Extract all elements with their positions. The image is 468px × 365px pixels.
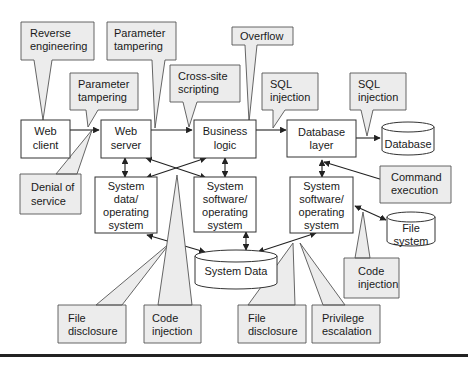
svg-text:injection: injection [152, 325, 192, 337]
box-system-software-os-mid: System software/ operating system [194, 177, 256, 232]
svg-text:system: system [109, 219, 144, 231]
svg-text:service: service [31, 195, 66, 207]
svg-text:system: system [394, 235, 429, 247]
svg-text:escalation: escalation [322, 325, 372, 337]
svg-text:execution: execution [391, 184, 438, 196]
svg-text:disclosure: disclosure [68, 325, 118, 337]
threat-diagram: Reverse engineering Parameter tampering … [0, 0, 468, 365]
svg-text:System: System [303, 180, 340, 192]
svg-text:system: system [208, 219, 243, 231]
bottom-divider [0, 354, 468, 357]
svg-text:tampering: tampering [114, 40, 163, 52]
svg-text:engineering: engineering [30, 40, 88, 52]
cylinder-file-system: File system [387, 212, 435, 247]
svg-text:Code: Code [358, 265, 384, 277]
svg-text:client: client [33, 139, 59, 151]
svg-text:File: File [248, 312, 266, 324]
svg-text:operating: operating [299, 206, 345, 218]
cylinder-system-data: System Data [195, 250, 277, 289]
svg-text:System Data: System Data [205, 265, 269, 277]
svg-text:Database: Database [298, 126, 345, 138]
svg-text:System: System [108, 180, 145, 192]
svg-text:Overflow: Overflow [240, 30, 283, 42]
svg-text:Privilege: Privilege [322, 312, 364, 324]
svg-text:Business: Business [203, 125, 248, 137]
svg-text:Web: Web [34, 125, 56, 137]
box-web-server: Web server [101, 120, 151, 158]
svg-text:Database: Database [384, 138, 431, 150]
svg-text:Web: Web [115, 125, 137, 137]
svg-text:layer: layer [310, 139, 334, 151]
svg-text:System: System [207, 180, 244, 192]
callout-cross-site-scripting: Cross-site scripting [170, 65, 240, 127]
svg-text:Denial of: Denial of [31, 181, 75, 193]
svg-text:injection: injection [358, 91, 398, 103]
box-web-client: Web client [21, 120, 70, 158]
svg-text:logic: logic [214, 139, 237, 151]
svg-text:operating: operating [103, 206, 149, 218]
svg-text:tampering: tampering [78, 91, 127, 103]
svg-text:disclosure: disclosure [248, 325, 298, 337]
svg-text:Reverse: Reverse [30, 27, 71, 39]
callout-parameter-tampering-mid: Parameter tampering [70, 73, 138, 127]
svg-text:operating: operating [202, 206, 248, 218]
svg-text:File: File [402, 222, 420, 234]
svg-text:data/: data/ [114, 193, 139, 205]
svg-text:Command: Command [391, 171, 442, 183]
svg-text:software/: software/ [299, 193, 345, 205]
callout-command-execution: Command execution [380, 166, 451, 203]
svg-text:Cross-site: Cross-site [178, 70, 228, 82]
svg-text:SQL: SQL [358, 78, 380, 90]
svg-text:Parameter: Parameter [114, 27, 166, 39]
box-system-data-os: System data/ operating system [95, 177, 157, 233]
svg-text:Code: Code [152, 312, 178, 324]
svg-text:SQL: SQL [270, 78, 292, 90]
svg-text:File: File [68, 312, 86, 324]
svg-text:injection: injection [270, 91, 310, 103]
svg-text:scripting: scripting [178, 83, 219, 95]
box-business-logic: Business logic [194, 120, 256, 158]
cylinder-database: Database [382, 122, 434, 155]
box-database-layer: Database layer [287, 120, 356, 157]
box-system-software-os-right: System software/ operating system [290, 177, 353, 233]
svg-text:software/: software/ [203, 193, 249, 205]
svg-text:Parameter: Parameter [78, 78, 130, 90]
svg-text:server: server [111, 139, 142, 151]
svg-text:system: system [304, 219, 339, 231]
svg-text:injection: injection [358, 278, 398, 290]
